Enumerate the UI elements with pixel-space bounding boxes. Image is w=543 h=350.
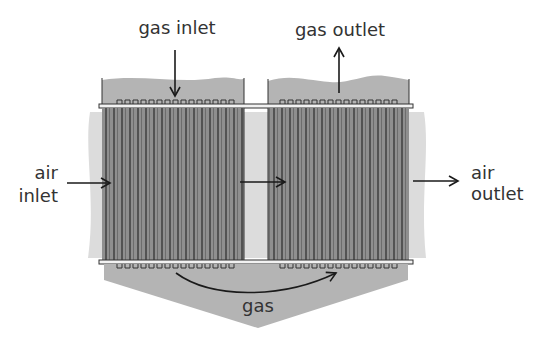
- air-outlet-label-line1: air: [471, 163, 494, 183]
- bottom-tube-sheet: [99, 260, 413, 264]
- air-inlet-label-line1: air: [10, 163, 58, 183]
- gas-outlet-label: gas outlet: [292, 20, 388, 40]
- air-preheater-diagram: gas inlet gas outlet air inlet air outle…: [0, 0, 543, 350]
- top-tube-sheet: [99, 104, 413, 108]
- gas-bottom-label: gas: [233, 296, 283, 316]
- gas-inlet-label: gas inlet: [136, 18, 218, 38]
- tube-bank-second-pass: [268, 108, 409, 262]
- air-inlet-label-line2: inlet: [10, 186, 58, 206]
- air-outlet-label-line2: outlet: [471, 184, 524, 204]
- tube-bank-first-pass: [102, 108, 244, 262]
